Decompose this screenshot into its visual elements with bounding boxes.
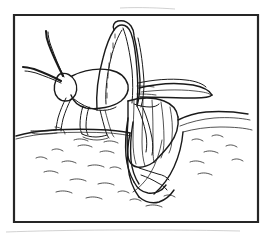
illustration-page: Grasshopper ovipositing in soil Black in…	[0, 0, 274, 242]
abdomen-anterior-edge	[127, 101, 128, 157]
grasshopper-ovipositing-illustration: Grasshopper ovipositing in soil Black in…	[0, 0, 274, 242]
page-background	[0, 0, 274, 242]
